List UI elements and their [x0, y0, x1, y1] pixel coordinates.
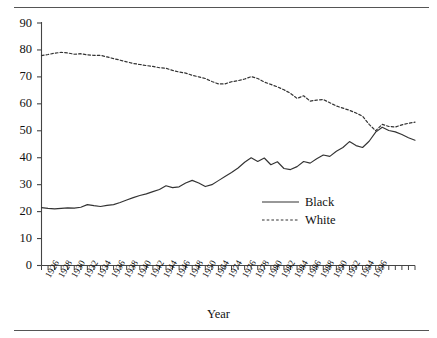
y-axis-tick-label: 50	[6, 124, 32, 136]
y-axis-tick-label: 60	[6, 97, 32, 109]
legend-label-black: Black	[305, 196, 334, 208]
legend-label-white: White	[305, 214, 336, 226]
series-line-white	[42, 52, 416, 130]
y-axis-tick-label: 70	[6, 70, 32, 82]
y-axis-tick-label: 40	[6, 151, 32, 163]
y-axis-tick-label: 90	[6, 17, 32, 29]
plot-area	[0, 0, 437, 338]
series-line-black	[42, 127, 416, 209]
x-axis-title: Year	[0, 307, 437, 322]
y-axis-tick-label: 20	[6, 205, 32, 217]
y-axis-tick-label: 80	[6, 43, 32, 55]
y-axis-tick-label: 30	[6, 178, 32, 190]
chart-figure: 0102030405060708090 19261928193019321934…	[0, 0, 437, 338]
y-axis-tick-label: 10	[6, 232, 32, 244]
y-axis-tick-label: 0	[6, 259, 32, 271]
